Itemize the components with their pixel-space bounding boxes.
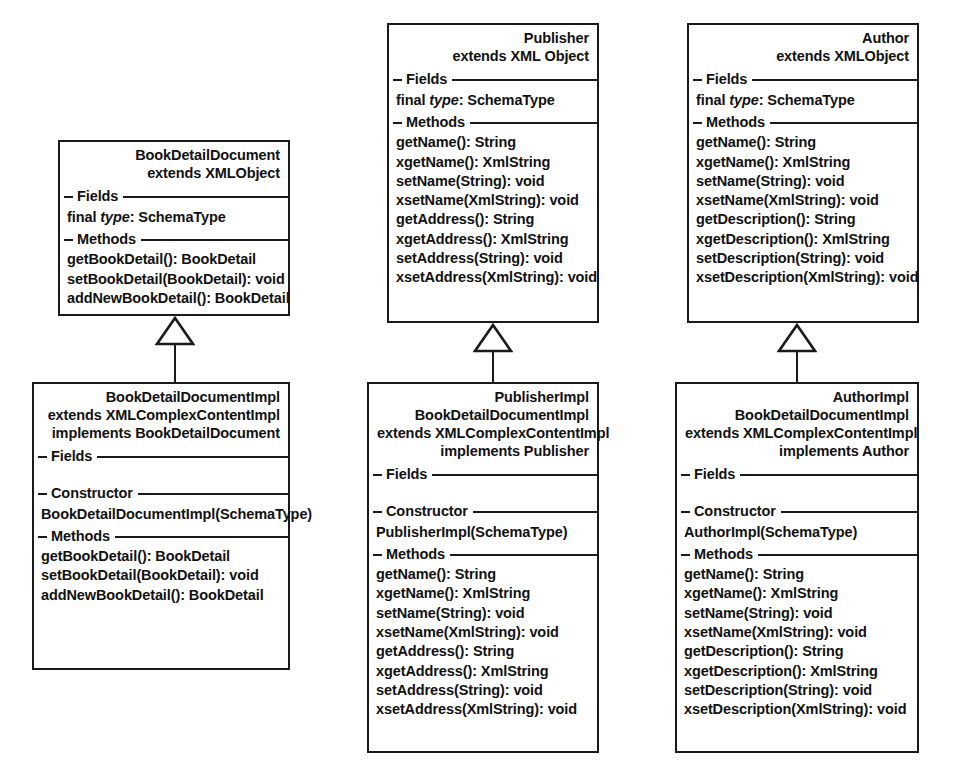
section-header-methods: Methods [677, 545, 917, 564]
section-divider [450, 554, 597, 556]
class-title-line: implements BookDetailDocument [42, 425, 280, 443]
member-token: getDescription(): String [696, 211, 856, 227]
section-methods: MethodsgetName(): StringxgetName(): XmlS… [389, 113, 597, 290]
member-list: getBookDetail(): BookDetailsetBookDetail… [34, 546, 288, 608]
class-title-line: implements Author [685, 443, 909, 461]
section-constructor: ConstructorPublisherImpl(SchemaType) [369, 503, 597, 545]
section-methods: MethodsgetBookDetail(): BookDetailsetBoo… [60, 230, 288, 311]
class-title-book-detail-document: BookDetailDocumentextends XMLObject [60, 142, 288, 188]
class-name: BookDetailDocumentImpl [42, 389, 280, 407]
member-token: xgetAddress(): XmlString [376, 663, 548, 679]
section-label: Fields [690, 466, 740, 482]
member-item: setBookDetail(BookDetail): void [41, 566, 282, 585]
member-token: setDescription(String): void [696, 250, 884, 266]
section-label: Methods [73, 231, 141, 247]
member-token: getDescription(): String [684, 643, 844, 659]
class-title-book-detail-document-impl: BookDetailDocumentImplextends XMLComplex… [34, 384, 288, 448]
section-divider [138, 493, 288, 495]
section-divider [452, 79, 597, 81]
member-item: xsetDescription(XmlString): void [684, 700, 911, 719]
class-name: BookDetailDocument [68, 147, 280, 165]
section-label: Methods [702, 114, 770, 130]
uml-class-diagram: BookDetailDocumentextends XMLObjectField… [0, 0, 953, 782]
empty-section [41, 468, 282, 482]
empty-section [376, 486, 591, 500]
class-title-line: extends XMLComplexContentImpl [377, 425, 589, 443]
member-token: xgetName(): XmlString [696, 154, 850, 170]
member-token: xsetAddress(XmlString): void [396, 269, 597, 285]
member-item: final type: SchemaType [696, 91, 911, 110]
section-divider [758, 554, 917, 556]
section-methods: MethodsgetName(): StringxgetName(): XmlS… [677, 545, 917, 722]
section-divider [781, 511, 917, 513]
member-token: addNewBookDetail(): BookDetail [41, 587, 264, 603]
section-constructor: ConstructorBookDetailDocumentImpl(Schema… [34, 485, 288, 527]
member-list: final type: SchemaType [60, 207, 288, 230]
member-token: : SchemaType [759, 92, 855, 108]
member-item: getName(): String [396, 133, 591, 152]
member-token: xgetName(): XmlString [684, 585, 838, 601]
member-item: getBookDetail(): BookDetail [67, 250, 282, 269]
section-label: Methods [382, 546, 450, 562]
class-box-author: Authorextends XMLObjectFieldsfinal type:… [687, 23, 919, 323]
section-label: Fields [382, 466, 432, 482]
class-box-publisher: Publisherextends XML ObjectFieldsfinal t… [387, 23, 599, 323]
member-item: BookDetailDocumentImpl(SchemaType) [41, 505, 282, 524]
member-token: xsetName(XmlString): void [396, 192, 579, 208]
class-title-line: extends XMLComplexContentImpl [685, 425, 909, 443]
member-token: setAddress(String): void [396, 250, 563, 266]
section-label: Fields [702, 71, 752, 87]
class-name: AuthorImpl [685, 389, 909, 407]
member-token: getName(): String [696, 134, 816, 150]
member-italic-token: type [429, 92, 458, 108]
section-header-constructor: Constructor [677, 503, 917, 522]
member-token: xsetName(XmlString): void [376, 624, 559, 640]
section-label: Constructor [47, 485, 138, 501]
member-token: setDescription(String): void [684, 682, 872, 698]
section-label: Methods [47, 528, 115, 544]
member-list: getName(): StringxgetName(): XmlStringse… [369, 564, 597, 722]
member-token: final [67, 209, 100, 225]
member-item: setName(String): void [696, 172, 911, 191]
section-fields: Fields [677, 466, 917, 503]
section-header-methods: Methods [389, 113, 597, 132]
member-list: getName(): StringxgetName(): XmlStringse… [389, 132, 597, 290]
inheritance-triangle-icon [473, 323, 513, 357]
class-title-line: implements Publisher [377, 443, 589, 461]
section-header-fields: Fields [389, 71, 597, 90]
section-label: Constructor [382, 503, 473, 519]
member-list: getName(): StringxgetName(): XmlStringse… [689, 132, 917, 290]
member-token: addNewBookDetail(): BookDetail [67, 290, 290, 306]
member-token: xgetDescription(): XmlString [696, 231, 890, 247]
member-token: getBookDetail(): BookDetail [67, 251, 256, 267]
section-label: Methods [402, 114, 470, 130]
member-token: setBookDetail(BookDetail): void [67, 271, 285, 287]
generalization-gen-author [774, 323, 820, 382]
member-token: xsetAddress(XmlString): void [376, 701, 577, 717]
section-header-fields: Fields [60, 188, 288, 207]
section-header-fields: Fields [689, 71, 917, 90]
generalization-line [174, 345, 176, 382]
member-item: xgetName(): XmlString [376, 584, 591, 603]
section-fields: Fields [34, 448, 288, 485]
member-token: PublisherImpl(SchemaType) [376, 524, 567, 540]
member-token: setName(String): void [376, 605, 525, 621]
section-header-methods: Methods [34, 527, 288, 546]
member-item: addNewBookDetail(): BookDetail [41, 586, 282, 605]
member-token: xgetName(): XmlString [376, 585, 530, 601]
inheritance-triangle-icon [155, 316, 195, 350]
member-token: : SchemaType [130, 209, 226, 225]
section-label: Constructor [690, 503, 781, 519]
member-item: xgetAddress(): XmlString [396, 230, 591, 249]
section-divider [740, 474, 917, 476]
member-item: setName(String): void [396, 172, 591, 191]
section-divider [432, 474, 597, 476]
member-item: xgetDescription(): XmlString [684, 662, 911, 681]
class-title-author: Authorextends XMLObject [689, 25, 917, 71]
member-item: getBookDetail(): BookDetail [41, 547, 282, 566]
generalization-gen-publisher [470, 323, 516, 382]
section-header-constructor: Constructor [369, 503, 597, 522]
member-token: getAddress(): String [396, 211, 534, 227]
member-item: final type: SchemaType [396, 91, 591, 110]
member-list: AuthorImpl(SchemaType) [677, 522, 917, 545]
